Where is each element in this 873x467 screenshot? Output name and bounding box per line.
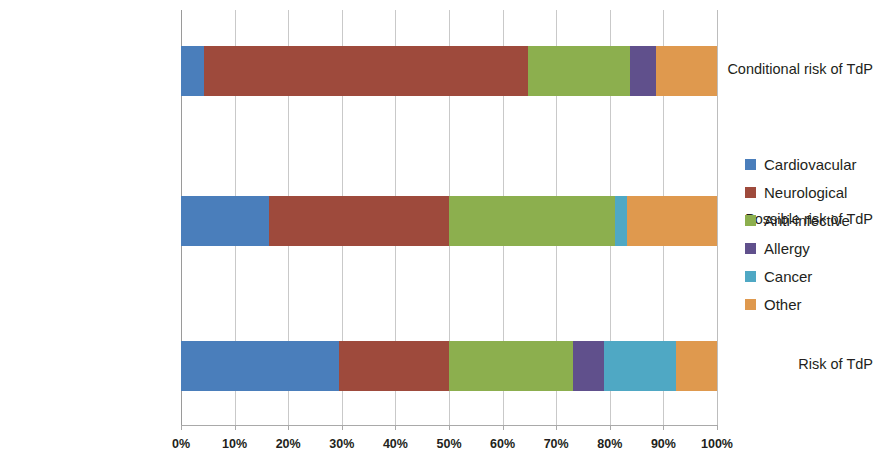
stacked-bar-chart: Conditional risk of TdPPossible risk of …	[0, 0, 873, 467]
x-axis-tick-label: 20%	[276, 437, 301, 451]
bar-segment	[181, 196, 269, 246]
bar-segment	[449, 196, 615, 246]
bar-segment	[604, 341, 675, 391]
x-axis-tick-label: 30%	[329, 437, 354, 451]
x-axis-tick	[342, 425, 343, 430]
legend-swatch-icon	[745, 159, 756, 170]
y-axis-category-label: Risk of TdP	[701, 356, 873, 372]
bar-segment	[339, 341, 449, 391]
legend-label: Other	[764, 296, 802, 313]
legend-item-2[interactable]: Neurological	[745, 178, 857, 206]
bar-segment	[630, 46, 656, 96]
legend-label: Cardiovacular	[764, 156, 857, 173]
bar-segment	[449, 341, 573, 391]
x-axis-tick	[449, 425, 450, 430]
x-axis-tick	[610, 425, 611, 430]
x-axis-tick-label: 90%	[651, 437, 676, 451]
bar-segment	[204, 46, 528, 96]
x-axis-tick-label: 60%	[490, 437, 515, 451]
plot-area	[181, 10, 717, 425]
legend-swatch-icon	[745, 215, 756, 226]
legend-swatch-icon	[745, 271, 756, 282]
legend-label: Neurological	[764, 184, 847, 201]
x-axis-tick	[717, 425, 718, 430]
legend-item-4[interactable]: Allergy	[745, 234, 857, 262]
legend-swatch-icon	[745, 299, 756, 310]
bar-segment	[615, 196, 627, 246]
bar-segment	[181, 46, 204, 96]
x-axis-tick-label: 100%	[701, 437, 733, 451]
x-axis-tick	[181, 425, 182, 430]
x-axis-tick	[556, 425, 557, 430]
bar-segment	[573, 341, 605, 391]
bar-1	[181, 46, 717, 96]
x-axis-tick	[288, 425, 289, 430]
legend-item-5[interactable]: Cancer	[745, 262, 857, 290]
legend-swatch-icon	[745, 243, 756, 254]
x-axis-tick-label: 70%	[544, 437, 569, 451]
legend-item-3[interactable]: Anti-infective	[745, 206, 857, 234]
legend-label: Cancer	[764, 268, 812, 285]
bar-segment	[269, 196, 449, 246]
x-axis-tick-label: 50%	[436, 437, 461, 451]
x-axis-tick	[395, 425, 396, 430]
bar-segment	[181, 341, 339, 391]
x-axis-tick-label: 0%	[172, 437, 190, 451]
x-axis-tick-label: 40%	[383, 437, 408, 451]
chart-legend: CardiovacularNeurologicalAnti-infectiveA…	[745, 150, 857, 318]
legend-label: Anti-infective	[764, 212, 850, 229]
legend-item-1[interactable]: Cardiovacular	[745, 150, 857, 178]
legend-label: Allergy	[764, 240, 810, 257]
x-axis-tick-label: 80%	[597, 437, 622, 451]
x-axis-tick	[503, 425, 504, 430]
x-axis-tick	[235, 425, 236, 430]
bar-segment	[528, 46, 630, 96]
bar-2	[181, 196, 717, 246]
bar-3	[181, 341, 717, 391]
x-axis-tick-label: 10%	[222, 437, 247, 451]
legend-swatch-icon	[745, 187, 756, 198]
x-axis-tick	[663, 425, 664, 430]
legend-item-6[interactable]: Other	[745, 290, 857, 318]
y-axis-category-label: Conditional risk of TdP	[701, 61, 873, 77]
